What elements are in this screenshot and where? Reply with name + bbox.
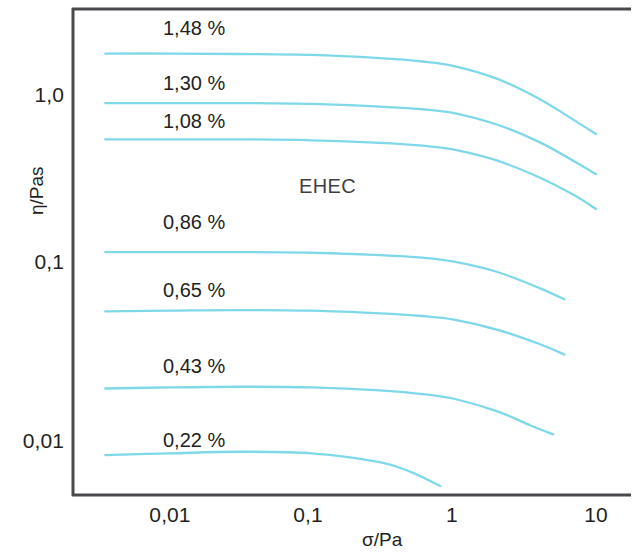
y-tick-label-0p1: 0,1: [8, 250, 64, 274]
plot-canvas: [0, 0, 636, 554]
curve-label-5: 0,65 %: [163, 279, 225, 302]
x-axis-title: σ/Pa: [362, 529, 402, 551]
y-axis-title: η/Pas: [26, 166, 48, 215]
x-tick-label-0p01: 0,01: [130, 503, 210, 527]
x-tick-label-1: 1: [424, 503, 480, 527]
y-tick-label-0p01: 0,01: [2, 429, 64, 453]
curve-label-7: 0,22 %: [163, 429, 225, 452]
curve-7: [105, 452, 440, 486]
curve-label-6: 0,43 %: [163, 355, 225, 378]
chart-annotation-ehec: EHEC: [299, 175, 356, 198]
curve-label-2: 1,30 %: [163, 72, 225, 95]
x-tick-label-10: 10: [566, 503, 626, 527]
curve-5: [105, 310, 564, 355]
x-tick-label-0p1: 0,1: [271, 503, 345, 527]
curve-label-1: 1,48 %: [163, 17, 225, 40]
y-tick-label-1: 1,0: [8, 83, 64, 107]
curve-label-4: 0,86 %: [163, 211, 225, 234]
chart-figure: 1,0 0,1 0,01 η/Pas 0,01 0,1 1 10 σ/Pa 1,…: [0, 0, 636, 554]
curve-label-3: 1,08 %: [163, 110, 225, 133]
curve-6: [105, 387, 553, 435]
